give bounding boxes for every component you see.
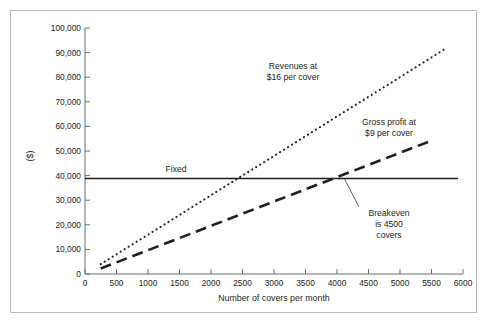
annotation-breakeven-line3: covers: [376, 230, 401, 240]
breakeven-chart: 100,000 90,000 80,000 70,000 60,000 50,0…: [11, 11, 476, 312]
y-axis-title: ($): [25, 151, 35, 162]
y-axis-ticks: [85, 28, 90, 274]
series-gross-profit-line: [101, 141, 432, 269]
y-tick-label: 10,000: [55, 244, 81, 254]
y-tick-label: 100,000: [51, 23, 82, 33]
x-tick-label: 5000: [391, 278, 410, 288]
y-tick-label: 40,000: [55, 171, 81, 181]
x-axis-title: Number of covers per month: [218, 293, 330, 303]
chart-page: 100,000 90,000 80,000 70,000 60,000 50,0…: [0, 0, 488, 326]
x-axis-tick-labels: 0 500 1000 1500 2000 2500 3000 3500 4000…: [83, 278, 473, 288]
y-tick-label: 80,000: [55, 72, 81, 82]
x-tick-label: 4500: [359, 278, 378, 288]
x-tick-label: 2500: [233, 278, 252, 288]
annotation-breakeven-line2: is 4500: [375, 219, 403, 229]
annotation-revenues-line1: Revenues at: [269, 61, 318, 71]
x-tick-label: 0: [83, 278, 88, 288]
x-tick-label: 5500: [422, 278, 441, 288]
annotation-gross-profit: Gross profit at $9 per cover: [362, 117, 417, 138]
x-tick-label: 500: [110, 278, 124, 288]
y-tick-label: 0: [76, 269, 81, 279]
x-tick-label: 4000: [328, 278, 347, 288]
annotation-fixed-label: Fixed: [165, 164, 186, 174]
annotation-gross-profit-line1: Gross profit at: [362, 117, 417, 127]
x-tick-label: 3000: [265, 278, 284, 288]
x-tick-label: 1500: [170, 278, 189, 288]
annotation-revenues: Revenues at $16 per cover: [267, 61, 320, 82]
x-tick-label: 2000: [202, 278, 221, 288]
y-tick-label: 20,000: [55, 220, 81, 230]
x-tick-label: 3500: [296, 278, 315, 288]
y-axis-tick-labels: 100,000 90,000 80,000 70,000 60,000 50,0…: [51, 23, 82, 279]
y-tick-label: 90,000: [55, 48, 81, 58]
breakeven-leader-line: [344, 178, 359, 207]
y-tick-label: 60,000: [55, 121, 81, 131]
x-tick-label: 6000: [454, 278, 473, 288]
y-tick-label: 70,000: [55, 97, 81, 107]
y-tick-label: 50,000: [55, 146, 81, 156]
annotation-revenues-line2: $16 per cover: [267, 72, 320, 82]
x-tick-label: 1000: [139, 278, 158, 288]
annotation-breakeven-line1: Breakeven: [368, 208, 409, 218]
annotation-gross-profit-line2: $9 per cover: [365, 128, 413, 138]
annotation-breakeven: Breakeven is 4500 covers: [344, 178, 410, 240]
x-axis-ticks: [85, 269, 463, 274]
y-tick-label: 30,000: [55, 195, 81, 205]
chart-frame: 100,000 90,000 80,000 70,000 60,000 50,0…: [10, 10, 477, 313]
